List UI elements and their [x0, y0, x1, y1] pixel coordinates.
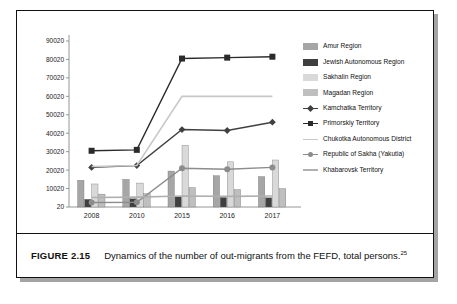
svg-text:2016: 2016 [219, 212, 235, 219]
legend-swatch-icon [303, 74, 318, 81]
svg-text:40020: 40020 [46, 130, 64, 137]
chart-area: 2010020200203002040020500206002070020800… [17, 11, 433, 233]
legend-line-icon [303, 105, 318, 112]
legend-item: Magadan Region [303, 85, 429, 100]
svg-text:60020: 60020 [46, 93, 64, 100]
legend-line-icon [303, 120, 318, 127]
legend-swatch-icon [303, 59, 318, 66]
screenshot-root: 2010020200203002040020500206002070020800… [0, 0, 457, 304]
legend-label: Sakhalin Region [323, 74, 371, 81]
legend-label: Republic of Sakha (Yakutia) [323, 151, 404, 158]
legend-label: Khabarovsk Territory [323, 167, 383, 174]
figure-caption: FIGURE 2.15 Dynamics of the number of ou… [17, 234, 433, 277]
legend-item: Jewish Autonomous Region [303, 54, 429, 69]
legend-label: Jewish Autonomous Region [323, 59, 404, 66]
legend-label: Amur Region [323, 43, 361, 50]
legend-line-icon [303, 151, 318, 158]
svg-text:2015: 2015 [174, 212, 190, 219]
legend-item: Khabarovsk Territory [303, 162, 429, 177]
svg-text:2008: 2008 [84, 212, 100, 219]
legend-item: Kamchatka Territory [303, 101, 429, 116]
svg-text:50020: 50020 [46, 111, 64, 118]
svg-text:2017: 2017 [265, 212, 281, 219]
legend-line-icon [303, 166, 318, 173]
legend-swatch-icon [303, 89, 318, 96]
chart-legend: Amur RegionJewish Autonomous RegionSakha… [303, 39, 429, 178]
svg-text:2010: 2010 [129, 212, 145, 219]
svg-text:20020: 20020 [46, 167, 64, 174]
svg-text:20: 20 [57, 203, 65, 210]
svg-text:80020: 80020 [46, 56, 64, 63]
legend-swatch-icon [303, 43, 318, 50]
legend-item: Amur Region [303, 39, 429, 54]
figure-number: FIGURE 2.15 [31, 250, 90, 261]
figure-caption-text: Dynamics of the number of out-migrants f… [104, 250, 407, 261]
legend-label: Chukotka Autonomous District [323, 136, 411, 143]
figure-footnote-marker: 25 [400, 250, 407, 256]
legend-line-icon [303, 136, 318, 143]
legend-label: Magadan Region [323, 90, 373, 97]
legend-item: Chukotka Autonomous District [303, 131, 429, 146]
figure-container: 2010020200203002040020500206002070020800… [16, 10, 434, 278]
svg-text:90020: 90020 [46, 37, 64, 44]
legend-label: Kamchatka Territory [323, 105, 382, 112]
legend-item: Sakhalin Region [303, 70, 429, 85]
chart-series [78, 54, 286, 207]
legend-label: Primorskiy Territory [323, 120, 379, 127]
svg-text:70020: 70020 [46, 74, 64, 81]
figure-caption-body: Dynamics of the number of out-migrants f… [104, 250, 400, 261]
legend-item: Republic of Sakha (Yakutia) [303, 147, 429, 162]
legend-item: Primorskiy Territory [303, 116, 429, 131]
svg-text:30020: 30020 [46, 148, 64, 155]
svg-text:10020: 10020 [46, 185, 64, 192]
